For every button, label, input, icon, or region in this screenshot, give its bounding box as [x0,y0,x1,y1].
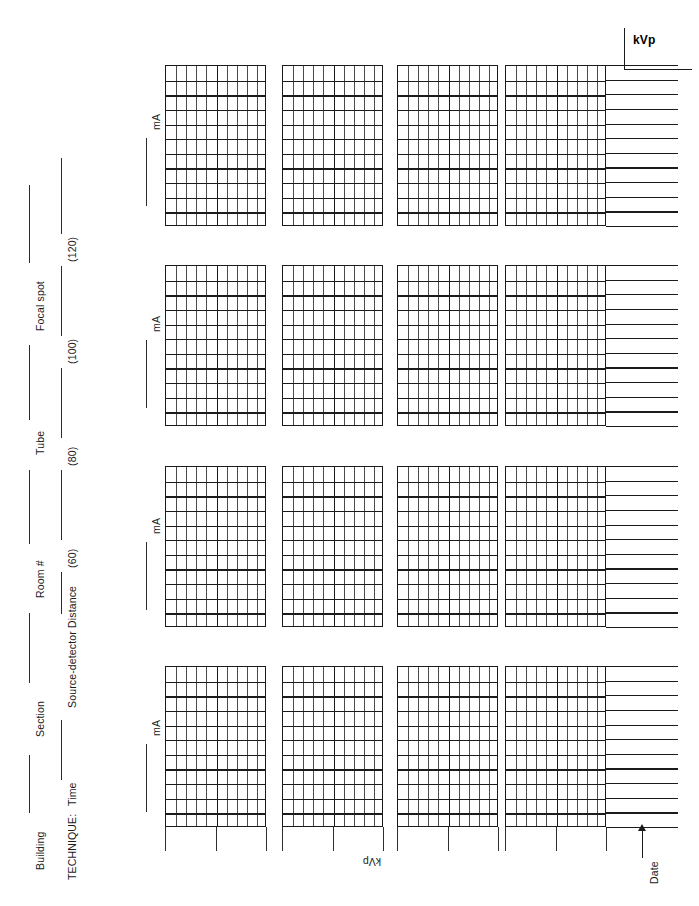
ma-rule-band-2[interactable] [146,340,147,408]
extension-line [606,324,678,325]
grid-block-r4-c2[interactable] [282,666,383,827]
grid-hline [283,555,382,556]
grid-block-r1-c4[interactable] [505,65,606,226]
grid-block-r3-c4[interactable] [505,466,606,627]
grid-vline [449,266,451,425]
grid-block-r3-c2[interactable] [282,466,383,627]
grid-block-r3-c1[interactable] [165,466,266,627]
kvp-tick-2 [216,827,217,851]
grid-block-r2-c3[interactable] [397,265,498,426]
grid-hline [398,769,497,770]
grid-vline [247,467,248,626]
grid-vline [459,467,460,626]
grid-vline [237,266,238,425]
extension-line [606,382,678,383]
grid-vline [489,467,490,626]
field-rule-kvp-80[interactable] [61,368,62,438]
grid-hline [283,599,382,600]
grid-hline [506,682,605,683]
grid-hline [398,212,497,213]
ma-rule-band-4[interactable] [146,744,147,812]
field-rule-kvp-100[interactable] [61,266,62,336]
grid-block-r2-c1[interactable] [165,265,266,426]
extension-line [606,182,678,183]
grid-hline [283,511,382,512]
grid-vline [364,66,365,225]
grid-hline [166,183,265,184]
extension-line [606,612,678,613]
grid-vline [428,667,429,826]
field-rule-tube[interactable] [29,345,30,420]
extension-line [606,124,678,125]
grid-block-r4-c1[interactable] [165,666,266,827]
grid-hline [506,412,605,413]
field-rule-source-detector-distance[interactable] [61,572,62,614]
grid-hline [398,81,497,82]
grid-hline [398,95,497,96]
kvp-tick-3 [266,827,267,851]
grid-vline [418,667,419,826]
grid-hline [506,383,605,384]
grid-hline [506,555,605,556]
grid-vline [303,467,304,626]
grid-block-r2-c2[interactable] [282,265,383,426]
grid-vline [479,667,480,826]
grid-hline [166,339,265,340]
grid-hline [283,740,382,741]
grid-block-r2-c4[interactable] [505,265,606,426]
grid-hline [506,310,605,311]
field-rule-room-number[interactable] [29,470,30,544]
grid-hline [398,354,497,355]
grid-vline [186,266,187,425]
grid-hline [166,398,265,399]
extension-line [606,681,678,682]
grid-vline [546,66,547,225]
grid-hline [506,482,605,483]
field-rule-section[interactable] [29,613,30,683]
extension-line [606,510,678,511]
grid-vline [313,66,314,225]
grid-vline [364,266,365,425]
grid-vline [247,266,248,425]
grid-block-r4-c4[interactable] [505,666,606,827]
extension-line [606,309,678,310]
field-rule-building[interactable] [29,755,30,813]
grid-vline [438,667,439,826]
field-rule-time[interactable] [61,720,62,780]
grid-vline [374,667,375,826]
grid-vline [408,467,409,626]
grid-hline [506,154,605,155]
grid-hline [283,726,382,727]
grid-hline [166,281,265,282]
grid-vline [303,266,304,425]
grid-hline [506,569,605,570]
field-rule-focal-spot[interactable] [29,185,30,263]
grid-block-r3-c3[interactable] [397,466,498,627]
grid-hline [283,295,382,296]
grid-hline [283,81,382,82]
grid-block-r1-c1[interactable] [165,65,266,226]
extension-line [606,197,678,198]
grid-block-r1-c2[interactable] [282,65,383,226]
grid-hline [166,198,265,199]
grid-hline [506,496,605,497]
extension-line [606,226,678,227]
grid-hline [166,769,265,770]
extension-line [606,768,678,769]
ma-rule-band-1[interactable] [146,138,147,206]
grid-vline [567,266,568,425]
grid-vline [408,266,409,425]
grid-hline [506,339,605,340]
grid-hline [398,325,497,326]
field-label-section: Section [34,701,46,737]
grid-block-r4-c3[interactable] [397,666,498,827]
grid-vline [176,66,177,225]
grid-hline [283,526,382,527]
grid-vline [428,66,429,225]
ma-rule-band-3[interactable] [146,542,147,610]
field-rule-kvp-120[interactable] [61,158,62,234]
grid-vline [257,266,258,425]
grid-block-r1-c3[interactable] [397,65,498,226]
field-rule-kvp-60[interactable] [61,470,62,540]
grid-hline [506,726,605,727]
